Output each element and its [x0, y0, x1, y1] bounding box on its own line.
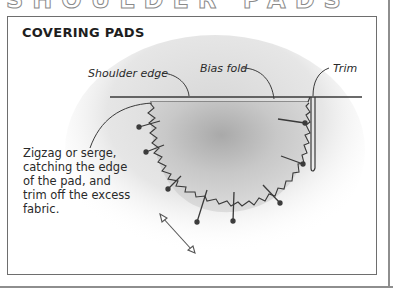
covering-pads-illustration: [0, 0, 393, 290]
label-shoulder-edge: Shoulder edge: [88, 67, 168, 80]
instruction-note: Zigzag or serge, catching the edge of th…: [23, 146, 133, 216]
figure-title: COVERING PADS: [22, 25, 145, 40]
label-trim: Trim: [333, 62, 357, 75]
label-bias-fold: Bias fold: [200, 62, 247, 75]
